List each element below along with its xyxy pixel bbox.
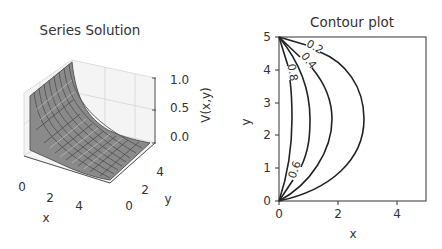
z-axis-label: V(x,y) xyxy=(199,87,213,123)
x-tick: 0 xyxy=(275,207,283,221)
x-tick: 2 xyxy=(46,191,54,205)
contour-title: Contour plot xyxy=(310,14,394,30)
y-tick: 5 xyxy=(263,30,271,44)
y-tick: 0 xyxy=(125,199,133,213)
figure: Series Solution xyxy=(0,0,442,249)
y-tick: 0 xyxy=(263,194,271,208)
x-tick: 4 xyxy=(75,199,83,213)
x-axis-label: x xyxy=(349,227,356,241)
contour-plot: Contour plot 0.2 0.4 0.6 0.8 xyxy=(239,14,426,241)
z-tick: 0.0 xyxy=(170,130,189,144)
y-tick: 3 xyxy=(263,96,271,110)
x-tick: 0 xyxy=(18,180,26,194)
y-tick: 4 xyxy=(156,165,164,179)
surface-plot: Series Solution xyxy=(18,22,213,225)
z-tick: 0.5 xyxy=(170,101,189,115)
contour-y-ticks xyxy=(275,37,279,201)
y-tick: 2 xyxy=(141,183,149,197)
x-axis-label: x xyxy=(42,211,49,225)
x-tick: 4 xyxy=(393,207,401,221)
surface-title: Series Solution xyxy=(40,22,141,38)
y-axis-label: y xyxy=(164,192,171,206)
y-tick: 1 xyxy=(263,161,271,175)
contour-x-ticks xyxy=(279,201,397,205)
y-tick: 4 xyxy=(263,63,271,77)
x-tick: 2 xyxy=(334,207,342,221)
contour-level-0.8 xyxy=(279,80,292,201)
y-tick: 2 xyxy=(263,128,271,142)
y-axis-label: y xyxy=(239,118,253,125)
z-tick: 1.0 xyxy=(170,73,189,87)
contour-label: 0.8 xyxy=(285,63,301,82)
